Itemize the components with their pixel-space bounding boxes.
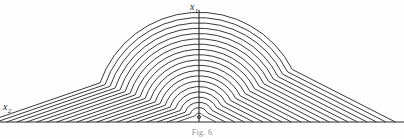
figure-caption: Fig. 6 (0, 128, 404, 137)
contour-curve (97, 71, 292, 122)
contour-curve (167, 108, 226, 122)
contour-curve (157, 102, 235, 122)
axis-label-x1: x1 (190, 1, 198, 15)
contour-curve (17, 28, 368, 122)
contour-curve (0, 12, 395, 122)
axis-label-x2-subscript: 2 (8, 107, 12, 115)
contour-curve (7, 23, 377, 122)
axis-label-x2: x2 (3, 101, 11, 115)
figure-container: x1 x2 Fig. 6 (0, 0, 404, 139)
axis-label-x1-subscript: 1 (195, 7, 199, 15)
contour-curve-group (0, 12, 395, 122)
contour-plot-canvas (0, 0, 404, 139)
